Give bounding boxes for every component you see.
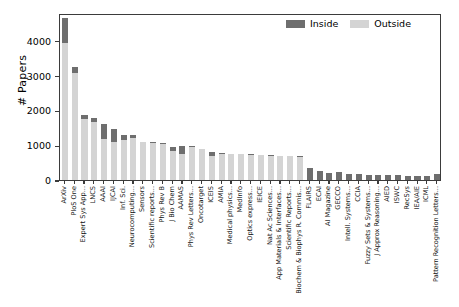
bar-29 [346, 174, 352, 180]
x-tick-mark [181, 181, 182, 184]
bar-segment-outside [287, 156, 293, 180]
x-tick-label: AIED [383, 186, 391, 202]
bar-segment-inside [179, 146, 185, 154]
x-tick-label: AAAI [99, 186, 107, 202]
bar-4 [101, 124, 107, 180]
x-tick-mark [250, 181, 251, 184]
bar-segment-outside [150, 143, 156, 180]
bar-36 [414, 176, 420, 180]
x-tick-mark [230, 181, 231, 184]
x-tick-mark [426, 181, 427, 184]
legend-entry-inside: Inside [286, 18, 338, 29]
bar-32 [375, 175, 381, 180]
x-tick-label: ArXiv [60, 186, 68, 203]
bar-segment-inside [356, 174, 362, 180]
x-tick-label: ISWC [393, 186, 401, 203]
bar-segment-inside [434, 174, 440, 180]
bar-segment-outside [140, 142, 146, 180]
bars-container [60, 15, 440, 180]
x-tick-mark [132, 181, 133, 184]
bar-2 [81, 115, 87, 180]
x-tick-mark [83, 181, 84, 184]
bar-15 [209, 152, 215, 180]
x-tick-mark [338, 181, 339, 184]
x-tick-label: Phys Rev B [158, 186, 166, 222]
legend-label-inside: Inside [310, 18, 338, 29]
bar-16 [219, 153, 225, 180]
bar-37 [424, 176, 430, 180]
bar-segment-outside [130, 138, 136, 180]
x-tick-label: AI Magazine [324, 186, 332, 226]
x-tick-label: FLAIRS [305, 186, 313, 209]
bar-18 [238, 154, 244, 180]
bar-35 [405, 176, 411, 180]
bar-38 [434, 174, 440, 180]
y-tick-label: 4000 [27, 36, 51, 47]
legend-entry-outside: Outside [350, 18, 411, 29]
x-tick-label: PloS One [70, 186, 78, 216]
bar-segment-inside [326, 173, 332, 180]
x-tick-label: Fuzzy Sets & Systems... [364, 186, 372, 264]
x-tick-label: LNCS [89, 186, 97, 203]
x-tick-mark [377, 181, 378, 184]
x-tick-label: RecSys [403, 186, 411, 210]
x-tick-mark [270, 181, 271, 184]
bar-segment-outside [199, 149, 205, 180]
x-tick-mark [123, 181, 124, 184]
bar-30 [356, 174, 362, 180]
legend-label-outside: Outside [374, 18, 411, 29]
bar-segment-inside [111, 129, 117, 143]
x-tick-label: GECCO [334, 186, 342, 210]
x-tick-mark [289, 181, 290, 184]
bar-1 [72, 67, 78, 180]
legend-swatch-outside [350, 20, 369, 28]
bar-segment-outside [238, 154, 244, 180]
x-tick-mark [309, 181, 310, 184]
bar-segment-outside [121, 140, 127, 180]
bar-segment-outside [248, 155, 254, 180]
x-tick-mark [113, 181, 114, 184]
bar-9 [150, 142, 156, 180]
x-tick-label: IEICE [256, 186, 264, 203]
x-tick-label: AMIA [217, 186, 225, 203]
bar-segment-inside [62, 18, 68, 43]
bar-segment-inside [346, 174, 352, 180]
bar-11 [170, 147, 176, 180]
x-tick-label: IEA/AIE [413, 186, 421, 209]
bar-segment-outside [277, 156, 283, 180]
x-tick-label: Scientific reports... [148, 186, 156, 248]
bar-17 [228, 154, 234, 180]
bar-31 [366, 175, 372, 180]
bar-24 [297, 156, 303, 180]
bar-segment-outside [101, 139, 107, 180]
bar-segment-outside [179, 154, 185, 180]
x-tick-mark [387, 181, 388, 184]
bar-segment-outside [111, 142, 117, 180]
x-tick-label: Scientific Reports... [285, 186, 293, 250]
bar-10 [160, 143, 166, 180]
bar-13 [189, 146, 195, 180]
x-tick-label: App Materials & Interfaces... [275, 186, 283, 280]
bar-25 [307, 168, 313, 180]
x-tick-mark [211, 181, 212, 184]
bar-segment-inside [405, 176, 411, 180]
bar-19 [248, 154, 254, 180]
chart-legend: Inside Outside [286, 18, 411, 29]
x-tick-label: Pattern Recognition Letters... [432, 186, 440, 282]
x-tick-label: J Bio Chem [168, 186, 176, 222]
bar-segment-inside [424, 176, 430, 180]
bar-22 [277, 156, 283, 180]
x-tick-mark [191, 181, 192, 184]
legend-swatch-inside [286, 20, 305, 28]
x-tick-label: Biochem & Biophys R. Commis... [295, 186, 303, 294]
x-tick-label: MedInfo [236, 186, 244, 212]
x-tick-mark [74, 181, 75, 184]
x-tick-mark [221, 181, 222, 184]
bar-33 [385, 175, 391, 180]
x-tick-label: Medical physics... [226, 186, 234, 244]
bar-14 [199, 149, 205, 180]
bar-segment-inside [307, 168, 313, 180]
bar-27 [326, 173, 332, 180]
bar-23 [287, 156, 293, 180]
x-tick-label: ECAI [315, 186, 323, 201]
